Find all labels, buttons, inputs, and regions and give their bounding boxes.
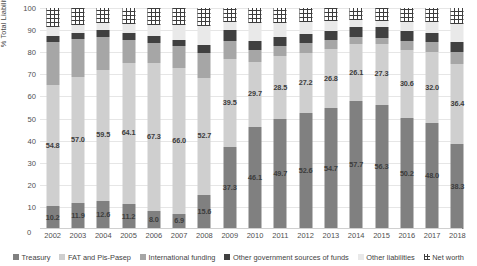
bar-segment[interactable] [249, 50, 262, 62]
bar-segment[interactable] [147, 25, 160, 36]
bar-segment[interactable] [223, 41, 236, 59]
bar-column[interactable]: 57.726.1 [344, 8, 369, 229]
bar-segment[interactable] [173, 8, 186, 25]
bar-segment[interactable] [71, 8, 84, 25]
bar-segment[interactable] [400, 22, 413, 31]
bar-segment[interactable] [46, 8, 59, 27]
stacked-bar[interactable] [324, 8, 337, 229]
legend-item[interactable]: Other liabilities [358, 253, 415, 262]
stacked-bar[interactable] [223, 8, 236, 229]
bar-segment[interactable] [97, 8, 110, 23]
stacked-bar[interactable] [299, 8, 312, 229]
bar-segment[interactable] [274, 37, 287, 46]
bar-segment[interactable] [147, 36, 160, 43]
bar-segment[interactable] [426, 33, 439, 42]
stacked-bar[interactable] [249, 8, 262, 229]
bar-column[interactable]: 50.230.6 [394, 8, 419, 229]
bar-column[interactable]: 48.032.0 [419, 8, 444, 229]
bar-segment[interactable] [223, 30, 236, 41]
bar-segment[interactable] [147, 43, 160, 62]
bar-segment[interactable] [274, 23, 287, 38]
legend-item[interactable]: International funding [140, 253, 215, 262]
bar-segment[interactable] [147, 8, 160, 25]
bar-segment[interactable] [299, 34, 312, 43]
bar-segment[interactable] [249, 8, 262, 23]
bar-segment[interactable] [46, 27, 59, 36]
stacked-bar[interactable] [274, 8, 287, 229]
bar-segment[interactable] [451, 24, 464, 42]
stacked-bar[interactable] [122, 8, 135, 229]
bar-column[interactable]: 12.659.5 [91, 8, 116, 229]
bar-segment[interactable] [198, 53, 211, 78]
bar-segment[interactable] [350, 37, 363, 44]
bar-segment[interactable] [350, 8, 363, 20]
bar-segment[interactable] [426, 22, 439, 33]
bar-segment[interactable] [299, 22, 312, 35]
bar-segment[interactable] [324, 8, 337, 21]
bar-segment[interactable] [46, 36, 59, 42]
stacked-bar[interactable] [451, 8, 464, 229]
bar-column[interactable]: 49.728.5 [268, 8, 293, 229]
bar-segment[interactable] [173, 40, 186, 46]
bar-segment[interactable] [173, 25, 186, 41]
bar-segment[interactable] [46, 42, 59, 85]
bar-segment[interactable] [71, 33, 84, 39]
bar-segment[interactable] [375, 21, 388, 27]
bar-segment[interactable] [97, 37, 110, 69]
bar-segment[interactable] [451, 8, 464, 24]
stacked-bar[interactable] [426, 8, 439, 229]
bar-segment[interactable] [249, 23, 262, 41]
bar-segment[interactable] [122, 8, 135, 24]
legend-item[interactable]: Treasury [13, 253, 50, 262]
bar-segment[interactable] [173, 46, 186, 68]
bar-segment[interactable] [375, 27, 388, 38]
stacked-bar[interactable] [147, 8, 160, 229]
bar-segment[interactable] [122, 40, 135, 63]
bar-column[interactable]: 54.726.8 [318, 8, 343, 229]
bar-column[interactable]: 38.336.4 [445, 8, 470, 229]
bar-column[interactable]: 6.966.0 [166, 8, 191, 229]
bar-segment[interactable] [299, 8, 312, 21]
bar-column[interactable]: 11.957.0 [65, 8, 90, 229]
bar-column[interactable]: 10.254.8 [40, 8, 65, 229]
bar-segment[interactable] [299, 43, 312, 53]
bar-segment[interactable] [324, 40, 337, 49]
bar-segment[interactable] [122, 33, 135, 40]
bar-segment[interactable] [324, 21, 337, 31]
bar-column[interactable]: 8.067.3 [141, 8, 166, 229]
bar-segment[interactable] [198, 26, 211, 45]
bar-column[interactable]: 46.129.7 [242, 8, 267, 229]
stacked-bar[interactable] [375, 8, 388, 229]
bar-column[interactable]: 37.339.5 [217, 8, 242, 229]
bar-segment[interactable] [223, 8, 236, 22]
bar-segment[interactable] [375, 8, 388, 21]
bar-segment[interactable] [400, 31, 413, 41]
legend-item[interactable]: FAT and Pis-Pasep [59, 253, 131, 262]
bar-segment[interactable] [375, 38, 388, 45]
stacked-bar[interactable] [350, 8, 363, 229]
bar-column[interactable]: 11.264.1 [116, 8, 141, 229]
bar-segment[interactable] [71, 25, 84, 33]
bar-segment[interactable] [198, 8, 211, 26]
stacked-bar[interactable] [46, 8, 59, 229]
bar-segment[interactable] [451, 52, 464, 64]
bar-segment[interactable] [71, 39, 84, 77]
bar-segment[interactable] [122, 24, 135, 33]
bar-column[interactable]: 15.652.7 [192, 8, 217, 229]
bar-segment[interactable] [350, 20, 363, 26]
stacked-bar[interactable] [400, 8, 413, 229]
stacked-bar[interactable] [97, 8, 110, 229]
bar-segment[interactable] [198, 45, 211, 53]
legend-item[interactable]: Net worth [424, 253, 464, 262]
stacked-bar[interactable] [173, 8, 186, 229]
bar-segment[interactable] [249, 41, 262, 50]
bar-segment[interactable] [97, 23, 110, 31]
bar-segment[interactable] [350, 27, 363, 37]
stacked-bar[interactable] [198, 8, 211, 229]
stacked-bar[interactable] [71, 8, 84, 229]
bar-segment[interactable] [223, 22, 236, 30]
bar-segment[interactable] [400, 8, 413, 22]
bar-segment[interactable] [451, 42, 464, 52]
bar-column[interactable]: 56.327.3 [369, 8, 394, 229]
bar-segment[interactable] [400, 41, 413, 50]
